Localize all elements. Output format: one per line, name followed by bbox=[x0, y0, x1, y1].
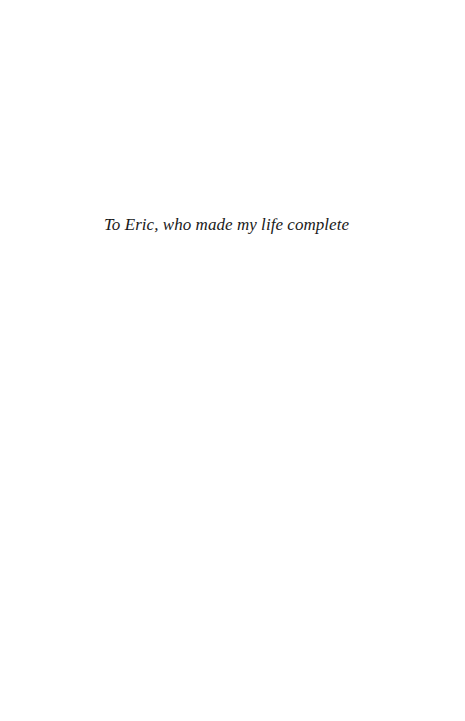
book-page: To Eric, who made my life complete bbox=[0, 0, 465, 721]
dedication-text: To Eric, who made my life complete bbox=[0, 215, 453, 235]
